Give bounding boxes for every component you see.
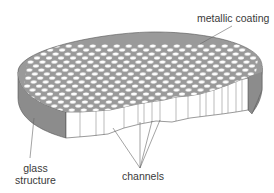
glass-structure-label: glass structure: [15, 162, 56, 186]
glass-label-line2: structure: [15, 174, 56, 186]
metallic-coating-label: metallic coating: [197, 12, 269, 24]
channels-label: channels: [122, 170, 164, 182]
glass-label-line1: glass: [15, 162, 56, 174]
diagram-canvas: metallic coating glass structure channel…: [0, 0, 274, 193]
glass-leader-line: [30, 118, 34, 158]
